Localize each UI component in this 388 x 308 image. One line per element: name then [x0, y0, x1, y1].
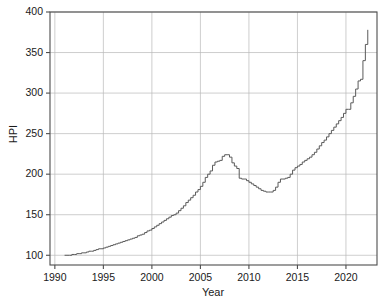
y-tick-label: 150: [25, 208, 43, 220]
x-axis-title: Year: [202, 286, 225, 298]
x-tick-label: 2015: [286, 271, 310, 283]
x-tick-label: 2010: [237, 271, 261, 283]
y-tick-label: 350: [25, 46, 43, 58]
x-tick-label: 1990: [43, 271, 67, 283]
y-tick-label: 200: [25, 167, 43, 179]
x-tick-label: 2005: [189, 271, 213, 283]
y-tick-label: 250: [25, 127, 43, 139]
x-tick-labels: 1990199520002005201020152020: [43, 271, 358, 283]
y-tick-label: 400: [25, 5, 43, 17]
y-tick-label: 100: [25, 249, 43, 261]
series-line-hpi: [65, 30, 368, 255]
y-tick-label: 300: [25, 86, 43, 98]
y-tick-labels: 100150200250300350400: [25, 5, 43, 260]
x-tick-label: 2000: [140, 271, 164, 283]
chart-figure: 100150200250300350400 199019952000200520…: [0, 0, 388, 308]
hpi-line-chart: 100150200250300350400 199019952000200520…: [0, 0, 388, 308]
x-tick-label: 1995: [92, 271, 116, 283]
grid-lines: [50, 12, 377, 265]
axes-frame: [50, 12, 377, 265]
x-tick-label: 2020: [334, 271, 358, 283]
series-hpi: [65, 30, 368, 255]
y-axis-title: HPI: [7, 125, 19, 143]
tick-marks: [46, 12, 346, 269]
plot-frame: [50, 12, 377, 265]
